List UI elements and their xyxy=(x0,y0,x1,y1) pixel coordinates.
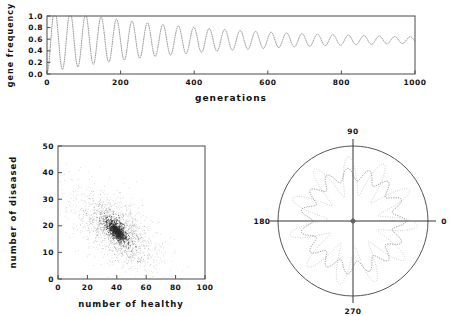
scatter-point xyxy=(142,239,143,240)
scatter-point xyxy=(114,246,115,247)
scatter-point xyxy=(115,213,116,214)
scatter-point xyxy=(89,224,90,225)
scatter-point xyxy=(111,250,112,251)
scatter-point xyxy=(123,215,124,216)
scatter-point xyxy=(100,216,101,217)
scatter-point xyxy=(94,212,95,213)
scatter-point xyxy=(102,245,103,246)
scatter-point xyxy=(130,228,131,229)
scatter-point xyxy=(134,255,135,256)
scatter-point xyxy=(131,263,132,264)
scatter-point xyxy=(114,241,115,242)
scatter-point xyxy=(123,229,124,230)
scatter-point xyxy=(140,253,141,254)
scatter-point xyxy=(89,218,90,219)
scatter-point xyxy=(153,276,154,277)
x-tick-label: 0 xyxy=(44,78,50,87)
scatter-point xyxy=(145,269,146,270)
scatter-point xyxy=(139,226,140,227)
scatter-point xyxy=(160,234,161,235)
scatter-point xyxy=(125,261,126,262)
scatter-point xyxy=(140,250,141,251)
scatter-point xyxy=(130,232,131,233)
scatter-point xyxy=(118,212,119,213)
scatter-point xyxy=(128,229,129,230)
scatter-point xyxy=(92,222,93,223)
scatter-point xyxy=(88,248,89,249)
scatter-point xyxy=(100,214,101,215)
scatter-point xyxy=(81,219,82,220)
scatter-point xyxy=(124,245,125,246)
scatter-point xyxy=(132,222,133,223)
scatter-point xyxy=(100,229,101,230)
scatter-point xyxy=(100,202,101,203)
scatter-point xyxy=(122,251,123,252)
scatter-point xyxy=(92,176,93,177)
scatter-point xyxy=(109,245,110,246)
scatter-point xyxy=(137,235,138,236)
scatter-point xyxy=(101,252,102,253)
scatter-point xyxy=(155,249,156,250)
scatter-point xyxy=(110,228,111,229)
scatter-point xyxy=(103,221,104,222)
scatter-point xyxy=(80,232,81,233)
timeseries-svg: 02004006008001000 0.00.20.40.60.81.0 gen… xyxy=(0,0,452,110)
scatter-point xyxy=(89,198,90,199)
healthy-diseased-scatter-chart: 020406080100 01020304050 number of healt… xyxy=(0,130,230,316)
scatter-point xyxy=(123,241,124,242)
scatter-point xyxy=(109,200,110,201)
scatter-point xyxy=(129,259,130,260)
scatter-point xyxy=(126,227,127,228)
scatter-point xyxy=(124,213,125,214)
scatter-point xyxy=(103,248,104,249)
scatter-point xyxy=(161,247,162,248)
scatter-point xyxy=(94,183,95,184)
scatter-point xyxy=(155,265,156,266)
scatter-point xyxy=(84,230,85,231)
scatter-point xyxy=(137,271,138,272)
scatter-point xyxy=(145,270,146,271)
scatter-point xyxy=(126,263,127,264)
scatter-point xyxy=(141,233,142,234)
scatter-point xyxy=(125,250,126,251)
scatter-point xyxy=(149,277,150,278)
scatter-point xyxy=(90,204,91,205)
scatter-point xyxy=(97,231,98,232)
scatter-point xyxy=(73,224,74,225)
scatter-point xyxy=(139,246,140,247)
scatter-point xyxy=(95,212,96,213)
scatter-point xyxy=(101,218,102,219)
scatter-point xyxy=(112,231,113,232)
scatter-point xyxy=(115,224,116,225)
scatter-point xyxy=(138,208,139,209)
scatter-point xyxy=(120,229,121,230)
scatter-point xyxy=(121,239,122,240)
scatter-point xyxy=(119,227,120,228)
scatter-point xyxy=(109,236,110,237)
scatter-point xyxy=(131,216,132,217)
scatter-point xyxy=(100,212,101,213)
scatter-point xyxy=(128,230,129,231)
scatter-point xyxy=(134,226,135,227)
y-tick-label: 0 xyxy=(48,275,54,284)
scatter-point xyxy=(148,242,149,243)
scatter-point xyxy=(108,219,109,220)
scatter-point xyxy=(112,242,113,243)
scatter-point xyxy=(109,211,110,212)
scatter-point xyxy=(165,252,166,253)
scatter-point xyxy=(120,201,121,202)
scatter-point xyxy=(70,193,71,194)
scatter-point xyxy=(154,260,155,261)
scatter-point xyxy=(150,250,151,251)
scatter-point xyxy=(101,237,102,238)
scatter-point xyxy=(128,218,129,219)
scatter-point xyxy=(113,244,114,245)
scatter-point xyxy=(123,227,124,228)
scatter-point xyxy=(64,174,65,175)
scatter-point xyxy=(120,222,121,223)
scatter-point xyxy=(128,251,129,252)
scatter-point xyxy=(94,228,95,229)
scatter-point xyxy=(95,257,96,258)
scatter-point xyxy=(142,205,143,206)
scatter-point xyxy=(127,233,128,234)
